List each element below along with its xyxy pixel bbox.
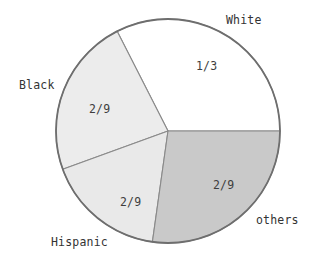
pie-chart: White1/3Black2/9Hispanic2/9others2/9 [0, 0, 314, 264]
pie-value-others: 2/9 [213, 179, 234, 192]
pie-label-hispanic: Hispanic [51, 236, 108, 249]
pie-label-others: others [256, 214, 299, 227]
pie-label-black: Black [19, 79, 55, 92]
pie-value-white: 1/3 [196, 60, 217, 73]
pie-label-white: White [226, 14, 262, 27]
pie-value-black: 2/9 [89, 103, 110, 116]
pie-slices-group [56, 19, 280, 243]
pie-value-hispanic: 2/9 [120, 196, 141, 209]
